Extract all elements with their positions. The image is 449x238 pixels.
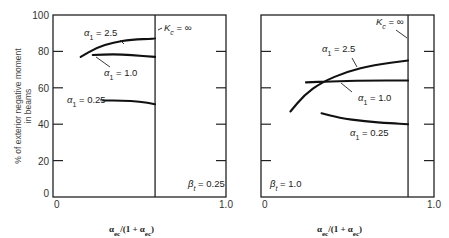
x-tick-label: 0 bbox=[54, 199, 60, 210]
series-line-alpha-0-25 bbox=[103, 101, 155, 105]
series-label: α1 = 2.5 bbox=[84, 27, 117, 41]
series-label: α1 = 0.25 bbox=[67, 94, 106, 108]
y-tick-label: 20 bbox=[38, 156, 50, 167]
beta-annotation: βt = 1.0 bbox=[269, 178, 301, 192]
x-tick-label: 1.0 bbox=[219, 199, 233, 210]
kc-arrow bbox=[158, 28, 162, 30]
series-label: α1 = 2.5 bbox=[322, 43, 355, 57]
x-axis-label: αec/(1 + αec) bbox=[109, 224, 154, 238]
series-label-arrow bbox=[352, 58, 357, 67]
kc-label: Kc = ∞ bbox=[164, 22, 192, 36]
y-axis-label-line1: % of exterior negative moment bbox=[13, 48, 23, 164]
series-line-alpha-1-0 bbox=[306, 81, 408, 83]
panel-right: 01.0Kc = ∞βt = 1.0α1 = 2.5α1 = 1.0α1 = 0… bbox=[261, 15, 441, 238]
y-axis-label: % of exterior negative moment in beams bbox=[13, 48, 33, 164]
y-tick-label: 60 bbox=[38, 83, 50, 94]
y-axis-label-line2: in beams bbox=[23, 89, 33, 124]
panel-left: 02040608010001.0Kc = ∞βt = 0.25α1 = 2.5α… bbox=[32, 10, 233, 238]
y-tick-label: 100 bbox=[32, 10, 49, 21]
series-label-arrow bbox=[96, 57, 110, 67]
series-label-arrow bbox=[341, 83, 352, 92]
series-line-alpha-0-25 bbox=[322, 113, 409, 124]
beta-annotation: βt = 0.25 bbox=[187, 178, 225, 192]
x-tick-label: 1.0 bbox=[427, 199, 441, 210]
series-label: α1 = 0.25 bbox=[350, 127, 389, 141]
y-tick-label: 40 bbox=[38, 119, 50, 130]
series-line-alpha-1-0 bbox=[93, 54, 155, 57]
y-tick-label: 80 bbox=[38, 46, 50, 57]
chart-canvas: % of exterior negative moment in beams 0… bbox=[0, 0, 449, 238]
x-tick-label: 0 bbox=[262, 199, 268, 210]
x-axis-label: αec/(1 + αec) bbox=[317, 224, 362, 238]
plot-frame bbox=[53, 15, 226, 197]
y-tick-label: 0 bbox=[43, 188, 49, 199]
series-label: α1 = 1.0 bbox=[104, 67, 137, 81]
kc-arrow bbox=[396, 30, 407, 38]
kc-label: Kc = ∞ bbox=[376, 16, 404, 30]
series-line-alpha-2-5 bbox=[290, 61, 408, 112]
series-label: α1 = 1.0 bbox=[358, 92, 391, 106]
